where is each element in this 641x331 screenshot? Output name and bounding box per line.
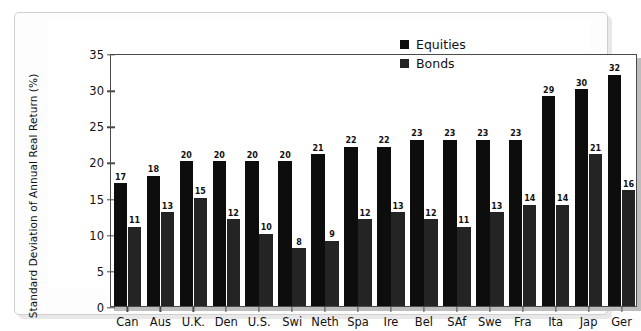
bar-group: 2010U.S. xyxy=(243,55,276,306)
chart-legend: EquitiesBonds xyxy=(400,37,466,75)
y-tick-label: 25 xyxy=(89,120,104,134)
bar-value-label: 12 xyxy=(228,209,239,218)
bar-equities: 32 xyxy=(608,75,622,306)
bar-value-label: 8 xyxy=(296,238,302,247)
bar-bonds: 11 xyxy=(128,227,142,307)
bar-bonds: 13 xyxy=(161,212,175,306)
bar-equities: 20 xyxy=(180,161,194,306)
bar-group: 2314Fra xyxy=(506,55,539,306)
bar-value-label: 20 xyxy=(214,151,225,160)
bar-value-label: 32 xyxy=(609,64,620,73)
bar-bonds: 15 xyxy=(194,198,208,306)
x-tick-label: Jap xyxy=(580,315,598,329)
x-tick-label: Fra xyxy=(514,315,532,329)
bar-value-label: 10 xyxy=(261,223,272,232)
chart-figure: Standard Deviation of Annual Real Return… xyxy=(48,21,590,287)
y-tick-label: 5 xyxy=(97,265,104,279)
x-tick-label: Aus xyxy=(150,315,171,329)
bar-value-label: 12 xyxy=(425,209,436,218)
bar-value-label: 16 xyxy=(623,180,634,189)
bar-group: 1813Aus xyxy=(144,55,177,306)
x-tick-mark xyxy=(555,306,556,312)
bar-bonds: 12 xyxy=(227,219,241,306)
bar-group: 2015U.K. xyxy=(177,55,210,306)
bar-bonds: 21 xyxy=(589,154,603,306)
x-tick-label: Spa xyxy=(347,315,369,329)
bar-equities: 20 xyxy=(213,161,227,306)
legend-item: Equities xyxy=(400,37,466,52)
bar-equities: 23 xyxy=(443,140,457,306)
bar-group: 219Neth xyxy=(309,55,342,306)
bar-value-label: 21 xyxy=(590,144,601,153)
legend-label: Equities xyxy=(416,37,466,52)
bar-value-label: 17 xyxy=(115,173,126,182)
bar-value-label: 18 xyxy=(148,165,159,174)
bar-value-label: 11 xyxy=(458,216,469,225)
bar-value-label: 11 xyxy=(129,216,140,225)
bar-value-label: 29 xyxy=(543,86,554,95)
bar-group: 2012Den xyxy=(210,55,243,306)
bar-value-label: 20 xyxy=(280,151,291,160)
y-axis-title: Standard Deviation of Annual Real Return… xyxy=(27,61,39,331)
legend-item: Bonds xyxy=(400,56,466,71)
x-tick-mark xyxy=(456,306,457,312)
x-tick-mark xyxy=(292,306,293,312)
x-tick-label: U.S. xyxy=(248,315,271,329)
bar-value-label: 14 xyxy=(557,194,568,203)
x-tick-mark xyxy=(621,306,622,312)
plot-area: Standard Deviation of Annual Real Return… xyxy=(110,54,637,307)
bar-bonds: 11 xyxy=(457,227,471,307)
x-tick-label: Ire xyxy=(383,315,398,329)
bar-group: 2313Swe xyxy=(473,55,506,306)
x-tick-mark xyxy=(390,306,391,312)
bar-equities: 23 xyxy=(476,140,490,306)
bar-value-label: 23 xyxy=(510,129,521,138)
bar-group: 3216Ger xyxy=(605,55,638,306)
bar-group: 2212Spa xyxy=(342,55,375,306)
y-tick-label: 15 xyxy=(89,193,104,207)
bar-value-label: 30 xyxy=(576,79,587,88)
x-tick-mark xyxy=(325,306,326,312)
bar-equities: 18 xyxy=(147,176,161,306)
y-tick-label: 0 xyxy=(97,301,104,315)
x-tick-mark xyxy=(357,306,358,312)
x-tick-label: Bel xyxy=(415,315,433,329)
bar-bonds: 13 xyxy=(490,212,504,306)
bar-series-container: 1711Can1813Aus2015U.K.2012Den2010U.S.208… xyxy=(111,55,636,306)
bar-value-label: 20 xyxy=(181,151,192,160)
bar-bonds: 8 xyxy=(292,248,306,306)
bar-value-label: 13 xyxy=(491,202,502,211)
bar-bonds: 16 xyxy=(622,190,636,306)
bar-bonds: 14 xyxy=(523,205,537,306)
bar-bonds: 14 xyxy=(556,205,570,306)
y-tick-mark xyxy=(107,307,115,308)
bar-group: 2311SAf xyxy=(440,55,473,306)
x-tick-label: Ger xyxy=(611,315,632,329)
bar-value-label: 22 xyxy=(378,136,389,145)
x-tick-label: Ita xyxy=(548,315,563,329)
x-tick-mark xyxy=(522,306,523,312)
y-tick-label: 10 xyxy=(89,229,104,243)
bar-equities: 21 xyxy=(311,154,325,306)
bar-equities: 23 xyxy=(410,140,424,306)
bar-equities: 17 xyxy=(114,183,128,306)
x-tick-mark xyxy=(193,306,194,312)
legend-swatch-icon xyxy=(400,40,409,49)
bar-equities: 20 xyxy=(245,161,259,306)
bar-equities: 29 xyxy=(542,96,556,306)
x-tick-mark xyxy=(259,306,260,312)
x-tick-label: SAf xyxy=(447,315,466,329)
x-tick-label: Swi xyxy=(282,315,302,329)
bar-bonds: 10 xyxy=(259,234,273,306)
x-tick-mark xyxy=(160,306,161,312)
bar-equities: 30 xyxy=(575,89,589,306)
x-tick-label: Can xyxy=(116,315,138,329)
bar-bonds: 9 xyxy=(325,241,339,306)
bar-equities: 22 xyxy=(344,147,358,306)
bar-value-label: 13 xyxy=(392,202,403,211)
bar-value-label: 21 xyxy=(313,144,324,153)
bar-value-label: 9 xyxy=(329,230,335,239)
bar-value-label: 12 xyxy=(359,209,370,218)
bar-value-label: 15 xyxy=(195,187,206,196)
y-tick-label: 30 xyxy=(89,84,104,98)
